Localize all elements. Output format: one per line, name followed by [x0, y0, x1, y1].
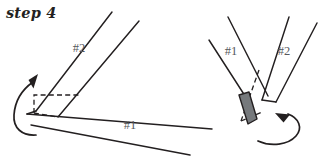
page-title: step 4	[6, 4, 57, 21]
left-strip1-edge-bottom	[31, 125, 190, 155]
left-strip-1-edges	[27, 114, 212, 155]
left-strip2-edge-inner	[58, 21, 139, 117]
diagram-canvas: step 4	[0, 0, 325, 156]
left-strip-2-label: #2	[73, 41, 86, 55]
right-strip2-edge-right	[276, 23, 317, 102]
right-strip2-base-cap	[262, 100, 276, 102]
right-strip2-edge-left	[262, 17, 289, 100]
left-strip2-edge-outer	[36, 12, 112, 111]
left-strip-1-label: #1	[124, 118, 137, 132]
left-panel: #2 #1	[14, 12, 212, 155]
right-panel: #1 #2	[209, 17, 317, 144]
left-strip-2-edges	[36, 12, 139, 117]
step-diagram: step 4	[0, 0, 325, 156]
right-strip-2-edges	[262, 17, 317, 102]
left-arrow-curve	[14, 82, 36, 135]
right-fold-arrow	[258, 113, 299, 144]
right-strip-1-edges	[209, 17, 268, 99]
left-arrow-head	[29, 74, 39, 89]
right-arrow-curve	[258, 114, 299, 144]
right-strip-2-label: #2	[278, 44, 291, 58]
right-strip-1-label: #1	[225, 44, 238, 58]
right-arrow-head	[275, 113, 290, 123]
